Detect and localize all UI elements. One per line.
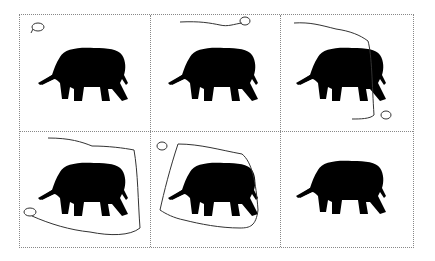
contour-head-icon	[381, 111, 391, 119]
panel-1	[20, 15, 150, 131]
panel-5	[150, 132, 280, 248]
contour-head-icon	[24, 208, 36, 216]
contour-line	[180, 22, 242, 26]
contour-seed-icon	[32, 23, 44, 31]
panel-2	[150, 15, 280, 131]
elephant-silhouette	[38, 48, 128, 101]
contour-head-icon	[240, 17, 250, 25]
panel-3	[280, 15, 414, 131]
panel-4	[20, 132, 150, 248]
elephant-segmented	[296, 161, 386, 214]
panel-6	[280, 132, 414, 248]
elephant-silhouette	[38, 163, 128, 216]
elephant-silhouette	[168, 48, 258, 101]
elephant-silhouette	[168, 163, 258, 216]
contour-seed-icon	[157, 142, 167, 150]
